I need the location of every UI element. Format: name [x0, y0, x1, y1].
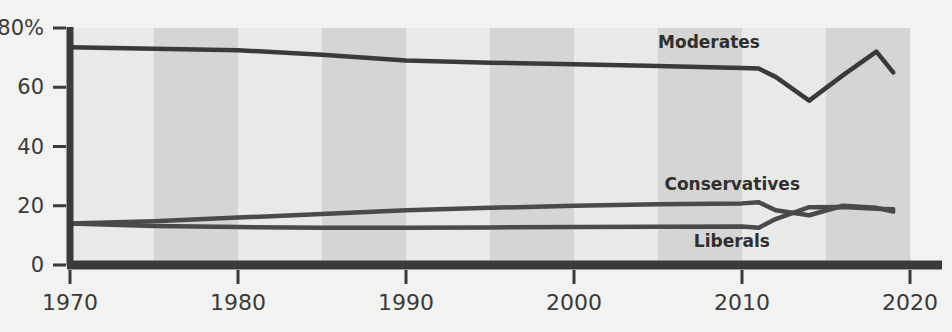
x-tick-label: 2010 — [714, 290, 770, 315]
line-chart: 020406080% 197019801990200020102020 Mode… — [0, 0, 952, 332]
y-tick-label: 0 — [31, 253, 44, 277]
x-tick-label: 1970 — [42, 290, 98, 315]
series-label-liberals: Liberals — [694, 231, 770, 251]
series-label-conservatives: Conservatives — [664, 174, 800, 194]
y-tick-label: 20 — [17, 194, 44, 218]
chart-container: 020406080% 197019801990200020102020 Mode… — [0, 0, 952, 332]
background-band — [658, 28, 742, 265]
x-tick-label: 1980 — [210, 290, 266, 315]
y-tick-label: 60 — [17, 75, 44, 99]
x-tick-label: 2000 — [546, 290, 602, 315]
y-tick-label: 40 — [17, 135, 44, 159]
x-tick-label: 2020 — [882, 290, 938, 315]
background-band — [154, 28, 238, 265]
y-tick-label: 80% — [0, 16, 44, 40]
background-band — [70, 28, 154, 265]
x-tick-label: 1990 — [378, 290, 434, 315]
background-band — [826, 28, 910, 265]
series-label-moderates: Moderates — [658, 32, 760, 52]
